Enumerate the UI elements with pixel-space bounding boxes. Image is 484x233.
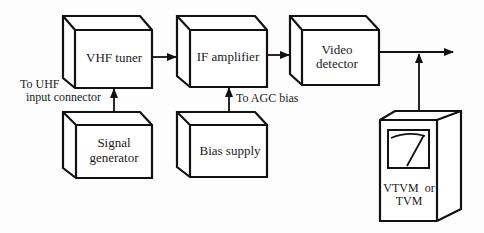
video-detector-label-line2: detector — [316, 56, 359, 71]
video-detector-label-line1: Video — [322, 42, 353, 57]
vhf-tuner-label: VHF tuner — [86, 50, 143, 65]
signal-generator-label-line2: generator — [89, 150, 139, 165]
signal-generator-block: Signal generator — [63, 112, 152, 178]
uhf-annotation-line1: To UHF — [20, 77, 60, 91]
vhf-tuner-block: VHF tuner — [63, 16, 152, 88]
uhf-annotation-line2: input connector — [26, 90, 101, 104]
video-detector-block: Video detector — [290, 16, 379, 85]
vtvm-meter-block: VTVM or TVM — [380, 111, 461, 221]
if-amplifier-label: IF amplifier — [197, 49, 260, 64]
bias-supply-block: Bias supply — [177, 112, 267, 177]
block-diagram: VHF tuner IF amplifier Video detector Si… — [0, 0, 484, 233]
meter-label-line1: VTVM or — [383, 181, 434, 195]
signal-generator-label-line1: Signal — [97, 135, 131, 150]
meter-label-line2: TVM — [396, 194, 423, 208]
bias-supply-label: Bias supply — [199, 143, 261, 158]
if-amplifier-block: IF amplifier — [177, 16, 267, 87]
agc-annotation: To AGC bias — [236, 91, 299, 105]
